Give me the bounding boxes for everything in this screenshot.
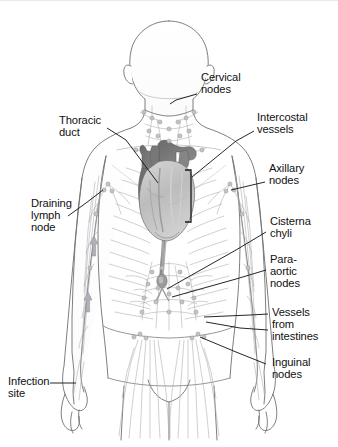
label-cisterna-chyli: Cisterna chyli [270, 216, 311, 240]
label-intercostal-vessels: Intercostal vessels [257, 112, 308, 136]
label-vessels-from-intestines: Vessels from intestines [272, 307, 318, 343]
label-axillary-nodes: Axillary nodes [269, 163, 304, 187]
lymphatic-system-figure: Cervical nodes Thoracic duct Intercostal… [0, 0, 338, 447]
heart-graphic [138, 140, 196, 266]
label-draining-lymph-node: Draining lymph node [31, 198, 72, 234]
label-thoracic-duct: Thoracic duct [59, 115, 101, 139]
label-cervical-nodes: Cervical nodes [201, 72, 241, 96]
label-inguinal-nodes: Inguinal nodes [272, 357, 310, 381]
label-para-aortic-nodes: Para- aortic nodes [270, 254, 300, 290]
label-infection-site: Infection site [8, 376, 49, 400]
